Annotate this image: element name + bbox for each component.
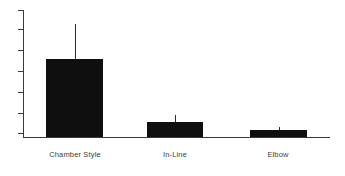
bar-in-line [147,122,203,137]
bar-chart: Chamber StyleIn-LineElbow [0,0,345,176]
error-bar-in-line [175,115,176,122]
plot-area: Chamber StyleIn-LineElbow [0,0,345,176]
y-axis-tick [18,71,23,72]
bar-chamber-style [46,59,103,137]
x-axis-line [23,137,330,138]
y-axis-tick [18,50,23,51]
x-axis-label-in-line: In-Line [145,150,205,159]
y-axis-line [23,10,24,138]
bar-elbow [250,130,307,137]
y-axis-tick [18,113,23,114]
y-axis-tick [18,92,23,93]
error-bar-chamber-style [75,24,76,59]
y-axis-tick [18,29,23,30]
x-axis-label-chamber-style: Chamber Style [40,150,110,159]
error-bar-elbow [279,127,280,130]
y-axis-tick [18,10,23,11]
y-axis-tick [18,133,23,134]
x-axis-label-elbow: Elbow [248,150,308,159]
